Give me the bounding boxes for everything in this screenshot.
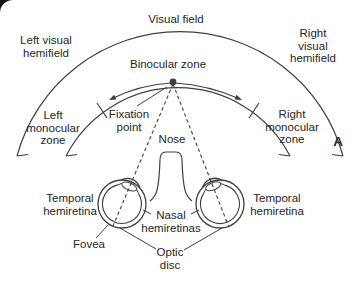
optic-disc-label: Optic disc [157, 246, 184, 271]
nose-label: Nose [159, 133, 186, 146]
binocular-arc-right-foot [279, 155, 290, 157]
visual-field-label: Visual field [148, 13, 203, 26]
fixation-point-label: Fixation point [109, 108, 149, 133]
left-eye-sclera [98, 180, 146, 228]
left-arrow-shaft [111, 83, 171, 99]
temporal-left-label: Temporal hemiretina [43, 192, 97, 217]
left-monocular-label: Left monocular zone [26, 109, 80, 147]
right-monocular-label: Right monocular zone [265, 108, 319, 146]
left-hemifield-label: Left visual hemifield [20, 34, 72, 59]
left-eye-lens [121, 180, 139, 193]
fovea-leader [96, 225, 108, 238]
right-hemifield-label: Right visual hemifield [290, 27, 337, 65]
left-gaze-dashed-line [113, 84, 173, 226]
visual-field-arc-left-foot [17, 155, 28, 157]
nose-outline [150, 152, 192, 201]
visual-field-arc-right-foot [332, 155, 343, 157]
left-eye [98, 178, 146, 228]
binocular-arc-left-foot [66, 155, 77, 157]
left-arrowhead [109, 95, 116, 100]
screen-corner [0, 0, 13, 13]
panel-label-a: A [333, 136, 343, 149]
figure-visual-fields-diagram: Visual field Left visual hemifield Right… [0, 0, 360, 284]
nasal-hemiretinas-label: Nasal hemiretinas [141, 209, 200, 234]
fovea-label: Fovea [73, 238, 105, 251]
right-arrowhead [235, 95, 242, 100]
binocular-zone-label: Binocular zone [130, 58, 206, 71]
temporal-right-label: Temporal hemiretina [250, 192, 304, 217]
